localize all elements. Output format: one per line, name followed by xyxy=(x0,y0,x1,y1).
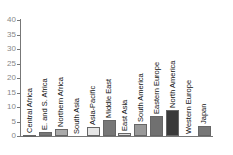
category-label: North America xyxy=(168,60,177,108)
y-tick xyxy=(17,20,20,21)
bar-e-and-s-africa xyxy=(39,132,52,136)
y-tick-label: 15 xyxy=(0,89,16,97)
category-label: South America xyxy=(136,74,145,123)
y-tick xyxy=(17,136,20,137)
y-tick-label: 0 xyxy=(0,132,16,140)
x-axis xyxy=(20,136,213,137)
bar-eastern-europe xyxy=(150,116,163,136)
y-tick xyxy=(17,93,20,94)
category-label: Middle East xyxy=(104,79,113,118)
bar-northern-africa xyxy=(55,129,68,136)
bar-south-america xyxy=(134,124,147,136)
category-label: South Asia xyxy=(72,98,81,134)
y-tick-label: 40 xyxy=(0,16,16,24)
y-tick-label: 25 xyxy=(0,60,16,68)
category-label: E. and S. Africa xyxy=(40,78,49,130)
y-tick xyxy=(17,64,20,65)
category-label: Eastern Europe xyxy=(152,62,161,114)
y-tick-label: 10 xyxy=(0,103,16,111)
y-tick xyxy=(17,78,20,79)
y-tick-label: 5 xyxy=(0,118,16,126)
bar-japan xyxy=(198,126,211,136)
y-tick-label: 20 xyxy=(0,74,16,82)
bar-east-asia xyxy=(118,133,131,136)
y-tick-label: 35 xyxy=(0,31,16,39)
y-axis xyxy=(20,19,21,137)
y-tick xyxy=(17,122,20,123)
y-tick xyxy=(17,35,20,36)
y-tick xyxy=(17,49,20,50)
bar-central-africa xyxy=(23,135,36,137)
category-label: Northern Africa xyxy=(56,77,65,127)
category-label: East Asia xyxy=(120,100,129,131)
y-tick-label: 30 xyxy=(0,45,16,53)
category-label: Asia-Pacific xyxy=(88,86,97,125)
bar-middle-east xyxy=(103,120,116,136)
category-label: Japan xyxy=(199,103,208,123)
category-label: Western Europe xyxy=(184,80,193,134)
bar-asia-pacific xyxy=(87,127,100,136)
y-tick xyxy=(17,107,20,108)
category-label: Central Africa xyxy=(25,88,34,133)
bar-north-america xyxy=(166,110,179,136)
bar-chart: 0510152025303540 Central AfricaE. and S.… xyxy=(0,0,233,155)
